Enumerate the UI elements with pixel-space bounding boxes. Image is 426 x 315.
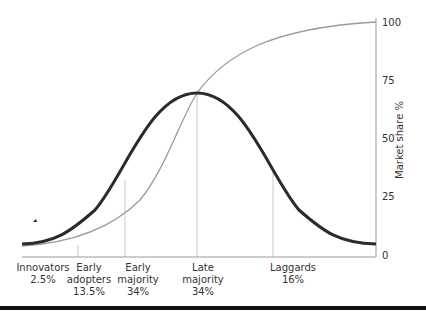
segment-boundaries [78,93,273,257]
category-name: Late [192,262,214,273]
y-tick-0: 0 [382,250,388,261]
category-share: 16% [282,274,304,285]
category-name-2: adopters [67,274,111,285]
category-name: Early [76,262,101,273]
bell-curve-adoption [22,93,376,244]
category-share: 13.5% [73,286,105,297]
y-tick-100: 100 [382,17,401,28]
category-laggards: Laggards 16% [270,262,316,285]
stray-mark [33,219,37,222]
category-early-adopters: Early adopters 13.5% [67,262,111,297]
category-late-majority: Late majority 34% [182,262,224,297]
category-labels: Innovators 2.5% Early adopters 13.5% Ear… [16,262,316,297]
category-name: Innovators [16,262,69,273]
category-innovators: Innovators 2.5% [16,262,69,285]
bottom-rule [0,306,426,310]
y-axis-title: Market share % [394,101,405,179]
category-name: Early [125,262,150,273]
category-name-2: majority [117,274,159,285]
y-tick-50: 50 [382,133,395,144]
y-tick-75: 75 [382,75,395,86]
category-share: 34% [192,286,214,297]
category-early-majority: Early majority 34% [117,262,159,297]
y-tick-25: 25 [382,191,395,202]
diffusion-of-innovations-chart: 100 75 50 25 0 Market share % Innovators… [0,0,426,315]
category-name-2: majority [182,274,224,285]
category-share: 34% [127,286,149,297]
s-curve-market-share [22,22,376,246]
category-share: 2.5% [30,274,55,285]
category-name: Laggards [270,262,316,273]
